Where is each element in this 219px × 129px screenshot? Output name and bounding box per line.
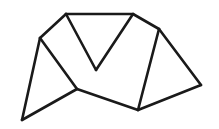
edge-H-G	[22, 89, 77, 120]
edge-F-D	[138, 29, 159, 110]
edge-D-E	[159, 29, 201, 85]
edge-B-H	[22, 38, 40, 120]
edge-A-B	[40, 14, 66, 38]
edge-G-F	[77, 89, 138, 110]
edge-V-C	[96, 14, 133, 70]
edge-C-D	[133, 14, 159, 29]
edge-B-G	[40, 38, 77, 89]
edge-E-F	[138, 85, 201, 110]
geometric-figure	[0, 0, 219, 129]
edge-A-V	[66, 14, 96, 70]
